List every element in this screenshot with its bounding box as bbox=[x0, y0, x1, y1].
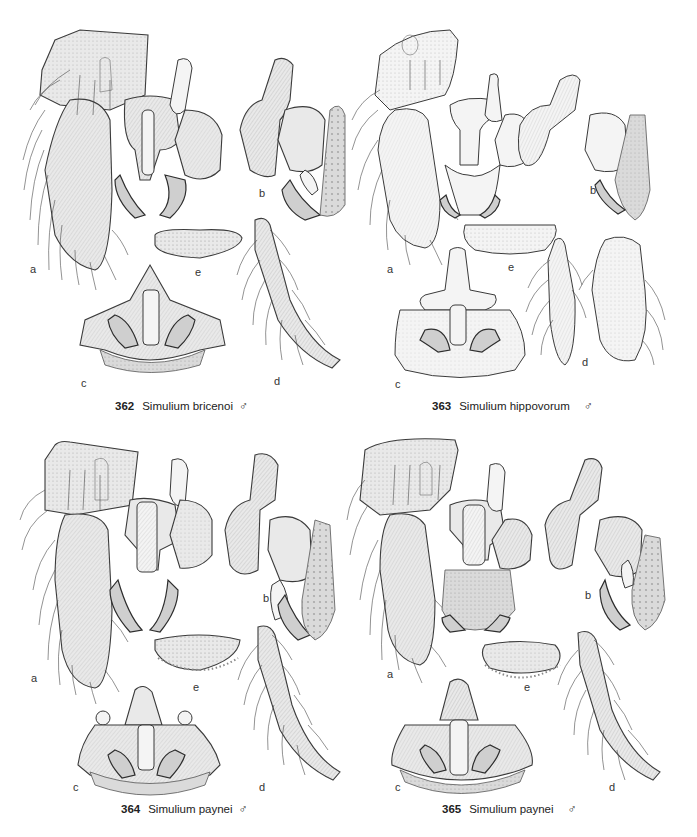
subfigure-e bbox=[155, 635, 240, 670]
subfigure-c bbox=[395, 248, 525, 378]
figure-364: a b e c d bbox=[0, 420, 350, 810]
sublabel-e: e bbox=[524, 682, 530, 693]
species-name: Simulium paynei bbox=[469, 803, 553, 815]
subfigure-d bbox=[238, 626, 340, 780]
figure-365: a b e c d bbox=[350, 420, 697, 810]
subfigure-b bbox=[240, 58, 345, 220]
subfigure-e bbox=[155, 230, 242, 258]
subfigure-b bbox=[225, 454, 335, 640]
male-symbol-icon: ♂ bbox=[239, 399, 248, 413]
sublabel-b: b bbox=[590, 185, 596, 196]
subfigure-b bbox=[545, 459, 665, 630]
subfigure-c bbox=[392, 679, 533, 793]
figure-365-illustration bbox=[350, 420, 697, 810]
sublabel-a: a bbox=[31, 673, 37, 684]
figure-number: 363 bbox=[432, 400, 451, 412]
caption-363: 363Simulium hippovorum♂ bbox=[432, 399, 593, 413]
figure-363-illustration bbox=[350, 0, 697, 420]
sublabel-b: b bbox=[259, 188, 265, 199]
species-name: Simulium bricenoi bbox=[142, 400, 233, 412]
sublabel-d: d bbox=[609, 782, 615, 793]
species-name: Simulium paynei bbox=[148, 803, 232, 815]
sublabel-b: b bbox=[263, 593, 269, 604]
sublabel-d: d bbox=[582, 357, 588, 368]
subfigure-e bbox=[464, 225, 557, 254]
male-symbol-icon: ♂ bbox=[239, 802, 248, 816]
sublabel-d: d bbox=[259, 782, 265, 793]
male-symbol-icon: ♂ bbox=[584, 399, 593, 413]
sublabel-e: e bbox=[193, 682, 199, 693]
sublabel-c: c bbox=[395, 782, 401, 793]
sublabel-a: a bbox=[387, 264, 393, 275]
figure-363: a b e c d bbox=[350, 0, 697, 420]
caption-362: 362Simulium bricenoi♂ bbox=[115, 399, 248, 413]
sublabel-d: d bbox=[274, 376, 280, 387]
subfigure-c bbox=[80, 265, 225, 373]
sublabel-a: a bbox=[30, 264, 36, 275]
figure-number: 364 bbox=[121, 803, 140, 815]
sublabel-e: e bbox=[195, 267, 201, 278]
subfigure-d bbox=[237, 218, 340, 368]
subfigure-d bbox=[526, 237, 665, 365]
caption-365: 365Simulium paynei♂ bbox=[442, 802, 577, 816]
sublabel-c: c bbox=[73, 782, 79, 793]
subfigure-b bbox=[518, 75, 650, 220]
subfigure-e bbox=[482, 642, 560, 678]
sublabel-b: b bbox=[585, 590, 591, 601]
figure-number: 362 bbox=[115, 400, 134, 412]
male-symbol-icon: ♂ bbox=[568, 802, 577, 816]
subfigure-d bbox=[558, 632, 660, 780]
figure-364-illustration bbox=[0, 420, 350, 810]
figure-362-illustration bbox=[0, 0, 350, 420]
sublabel-a: a bbox=[387, 669, 393, 680]
caption-364: 364Simulium paynei♂ bbox=[121, 802, 248, 816]
sublabel-e: e bbox=[508, 262, 514, 273]
subfigure-c bbox=[78, 686, 220, 795]
species-name: Simulium hippovorum bbox=[459, 400, 570, 412]
figure-number: 365 bbox=[442, 803, 461, 815]
sublabel-c: c bbox=[395, 379, 401, 390]
sublabel-c: c bbox=[81, 378, 87, 389]
figure-362: a b e c d bbox=[0, 0, 350, 420]
